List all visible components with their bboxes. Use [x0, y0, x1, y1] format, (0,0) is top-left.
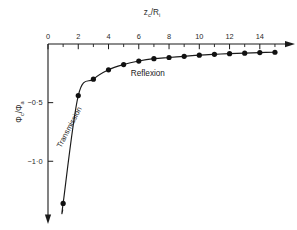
- x-tick-label: 0: [46, 32, 50, 41]
- data-point: [91, 77, 96, 82]
- data-point: [121, 62, 126, 67]
- scientific-plot: 02468101214 −0·5−1·0 TransmissionReflexi…: [0, 0, 297, 230]
- x-axis-title: zc/Ri: [144, 8, 160, 18]
- data-point: [227, 51, 232, 56]
- chart-figure: 02468101214 −0·5−1·0 TransmissionReflexi…: [0, 0, 297, 230]
- x-tick-label: 2: [76, 32, 80, 41]
- data-point: [76, 93, 81, 98]
- data-point: [182, 54, 187, 59]
- y-tick-label: −1·0: [28, 157, 43, 166]
- data-point: [136, 58, 141, 63]
- data-point: [197, 53, 202, 58]
- x-tick-label: 10: [195, 32, 203, 41]
- y-tick-label: −0·5: [28, 98, 43, 107]
- data-point: [242, 51, 247, 56]
- x-tick-label: 4: [106, 32, 110, 41]
- x-tick-label: 14: [256, 32, 264, 41]
- region-label: Reflexion: [131, 69, 166, 78]
- data-point: [166, 55, 171, 60]
- data-point: [106, 67, 111, 72]
- x-tick-label: 8: [167, 32, 171, 41]
- x-tick-label: 6: [137, 32, 141, 41]
- data-point: [212, 52, 217, 57]
- data-point: [151, 56, 156, 61]
- data-point: [272, 50, 277, 55]
- x-tick-label: 12: [225, 32, 233, 41]
- data-point: [61, 201, 66, 206]
- data-point: [257, 50, 262, 55]
- plot-background: [0, 0, 297, 230]
